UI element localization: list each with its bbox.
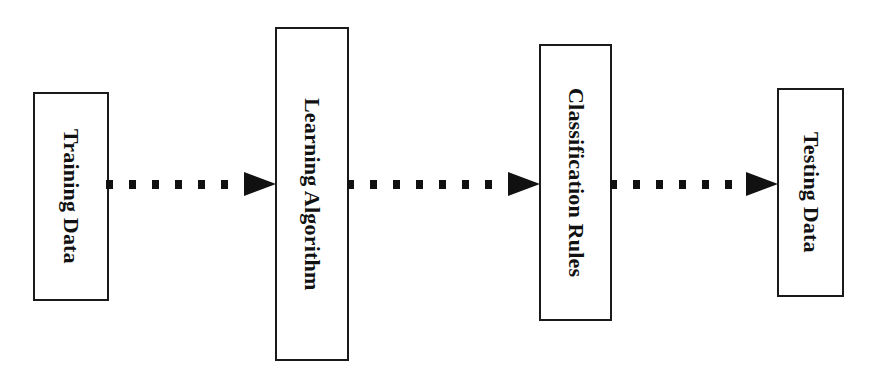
node-training-data: Training Data	[33, 92, 109, 301]
node-label: Testing Data	[798, 132, 824, 253]
node-label: Training Data	[58, 129, 84, 264]
node-label: Learning Algorithm	[299, 98, 325, 290]
dotted-line	[106, 180, 244, 189]
arrowhead-icon	[508, 172, 540, 196]
edge-training-to-learning	[106, 172, 276, 196]
edge-learning-to-rules	[347, 172, 540, 196]
node-classification-rules: Classification Rules	[539, 44, 612, 321]
arrowhead-icon	[244, 172, 276, 196]
node-learning-algorithm: Learning Algorithm	[275, 27, 349, 361]
dotted-line	[610, 180, 746, 189]
node-label: Classification Rules	[563, 88, 589, 277]
arrowhead-icon	[746, 172, 778, 196]
edge-rules-to-testing	[610, 172, 778, 196]
dotted-line	[347, 180, 508, 189]
node-testing-data: Testing Data	[777, 88, 844, 297]
